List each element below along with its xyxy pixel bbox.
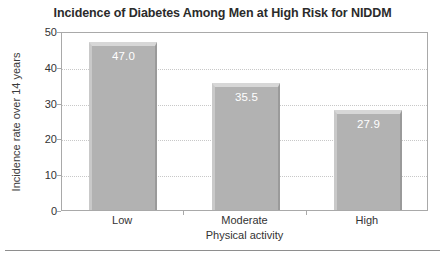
y-axis-tick-label: 20	[27, 133, 57, 145]
bar-low: 47.0	[89, 42, 157, 210]
bar-chart-figure: Incidence of Diabetes Among Men at High …	[0, 0, 445, 260]
chart-title: Incidence of Diabetes Among Men at High …	[0, 6, 445, 20]
y-axis-tick-label: 0	[27, 205, 57, 217]
y-axis-title-container: Incidence rate over 14 years	[6, 32, 26, 212]
bar-value-label: 47.0	[92, 50, 155, 62]
y-axis-tick-label: 30	[27, 98, 57, 110]
y-axis-tick-label: 10	[27, 169, 57, 181]
bar-value-label: 27.9	[337, 118, 400, 130]
bar-high: 27.9	[334, 110, 402, 210]
y-axis-title: Incidence rate over 14 years	[10, 53, 22, 192]
x-axis-title: Physical activity	[61, 229, 428, 241]
x-axis-category-label: High	[306, 214, 428, 226]
bar-moderate: 35.5	[212, 83, 280, 210]
y-axis-tick-label: 50	[27, 26, 57, 38]
y-axis-tick-mark	[57, 68, 61, 69]
y-axis-tick-mark	[57, 175, 61, 176]
x-axis-category-label: Low	[61, 214, 183, 226]
bar-value-label: 35.5	[215, 91, 278, 103]
bottom-divider	[5, 250, 440, 251]
y-axis-tick-mark	[57, 139, 61, 140]
y-axis-tick-mark	[57, 104, 61, 105]
x-axis-category-label: Moderate	[183, 214, 305, 226]
y-axis-tick-mark	[57, 32, 61, 33]
y-axis-tick-mark	[57, 211, 61, 212]
plot-area: 47.035.527.9	[61, 32, 428, 211]
y-axis-tick-labels: 01020304050	[25, 32, 57, 211]
y-axis-tick-label: 40	[27, 62, 57, 74]
